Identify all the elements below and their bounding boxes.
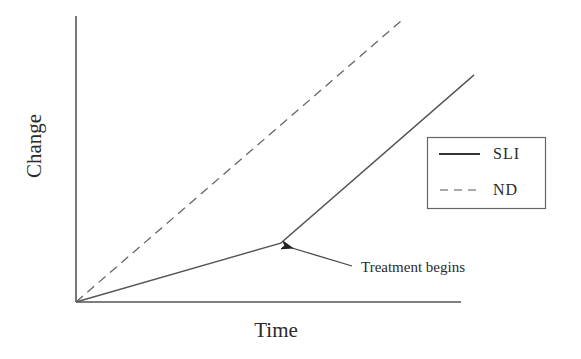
legend-label-nd: ND bbox=[493, 181, 518, 198]
annotation-arrow bbox=[292, 248, 352, 266]
legend: SLI ND bbox=[428, 138, 546, 209]
chart: Change Time SLI ND Treatment begins bbox=[0, 0, 581, 359]
y-axis-label: Change bbox=[22, 114, 46, 178]
legend-box bbox=[428, 138, 546, 209]
x-axis-label: Time bbox=[254, 318, 298, 342]
series-line-nd bbox=[76, 20, 402, 302]
legend-label-sli: SLI bbox=[493, 145, 520, 162]
annotation: Treatment begins bbox=[292, 248, 465, 275]
annotation-text: Treatment begins bbox=[361, 259, 465, 275]
